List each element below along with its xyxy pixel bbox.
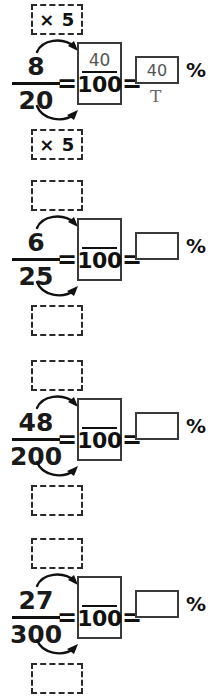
percent-sign: % bbox=[186, 416, 206, 436]
multiplier-box-bottom[interactable] bbox=[31, 663, 83, 694]
problem-row: 48 200 = 100 = % bbox=[0, 360, 213, 530]
source-fraction: 48 200 bbox=[8, 410, 64, 469]
multiplier-box-bottom[interactable] bbox=[31, 305, 83, 336]
fraction-numerator: 48 bbox=[8, 410, 64, 436]
fraction-denominator: 300 bbox=[8, 622, 64, 647]
hundredths-numerator-input[interactable] bbox=[83, 407, 116, 426]
hundredths-fraction-box[interactable]: 40 100 bbox=[77, 42, 122, 105]
hundredths-numerator-input[interactable] bbox=[83, 585, 116, 604]
fraction-bar bbox=[12, 82, 60, 85]
equals-sign-first: = bbox=[57, 606, 77, 630]
hundredths-denominator: 100 bbox=[77, 250, 121, 272]
hundredths-denominator: 100 bbox=[77, 74, 121, 96]
hundredths-fraction-box[interactable]: 100 bbox=[77, 576, 122, 639]
source-fraction: 8 20 bbox=[8, 54, 64, 113]
percent-sign: % bbox=[186, 60, 206, 80]
multiplier-box-top[interactable] bbox=[31, 180, 83, 211]
hundredths-fraction-box[interactable]: 100 bbox=[77, 398, 122, 461]
equals-sign-first: = bbox=[57, 72, 77, 96]
percent-sign: % bbox=[186, 594, 206, 614]
equals-sign-first: = bbox=[57, 428, 77, 452]
multiplier-box-bottom[interactable]: × 5 bbox=[31, 129, 83, 160]
multiplier-box-bottom[interactable] bbox=[31, 485, 83, 516]
answer-input-box[interactable] bbox=[135, 412, 179, 440]
multiplier-box-top[interactable]: × 5 bbox=[31, 4, 83, 35]
fraction-denominator: 20 bbox=[8, 88, 64, 113]
source-fraction: 6 25 bbox=[8, 230, 64, 289]
multiplier-box-top[interactable] bbox=[31, 360, 83, 391]
answer-input-box[interactable] bbox=[135, 590, 179, 618]
fraction-bar bbox=[12, 258, 60, 261]
fraction-numerator: 27 bbox=[8, 588, 64, 614]
hundredths-denominator: 100 bbox=[77, 608, 121, 630]
answer-input-box[interactable] bbox=[135, 232, 179, 260]
multiplier-box-top[interactable] bbox=[31, 538, 83, 569]
fraction-numerator: 8 bbox=[8, 54, 64, 80]
percent-sign: % bbox=[186, 236, 206, 256]
answer-input-box[interactable]: 40 bbox=[135, 56, 179, 84]
hundredths-fraction-box[interactable]: 100 bbox=[77, 218, 122, 281]
problem-row: 6 25 = 100 = % bbox=[0, 180, 213, 350]
problem-row: × 5 8 20 = 40 100 = 40 % T bbox=[0, 4, 213, 174]
equals-sign-first: = bbox=[57, 248, 77, 272]
fraction-numerator: 6 bbox=[8, 230, 64, 256]
hundredths-numerator-input[interactable]: 40 bbox=[83, 51, 116, 70]
hundredths-numerator-input[interactable] bbox=[83, 227, 116, 246]
fraction-denominator: 200 bbox=[8, 444, 64, 469]
fraction-bar bbox=[12, 616, 60, 619]
hundredths-denominator: 100 bbox=[77, 430, 121, 452]
handwritten-annotation: T bbox=[150, 88, 161, 105]
source-fraction: 27 300 bbox=[8, 588, 64, 647]
fraction-denominator: 25 bbox=[8, 264, 64, 289]
problem-row: 27 300 = 100 = % bbox=[0, 538, 213, 698]
fraction-bar bbox=[12, 438, 60, 441]
